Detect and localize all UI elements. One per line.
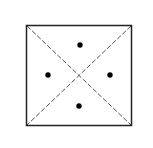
dot-right [107, 72, 112, 77]
square-diagram [0, 0, 153, 148]
dot-top [77, 42, 82, 47]
dot-bottom [76, 103, 81, 108]
dot-left [45, 72, 50, 77]
